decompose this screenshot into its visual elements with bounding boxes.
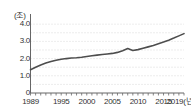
plot-area (0, 0, 191, 112)
data-series-line (31, 34, 185, 70)
line-chart: (조) 01.02.03.04.0 1989199520002005201020… (0, 0, 191, 112)
